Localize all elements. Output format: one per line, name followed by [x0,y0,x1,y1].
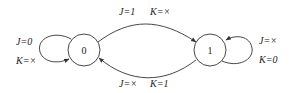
state-1-label: 1 [208,45,213,56]
state-1: 1 [194,34,226,66]
self-loop-0 [39,35,71,62]
state-0: 0 [68,34,100,66]
edge-0-to-1-k-label: K=× [149,6,170,17]
self-loop-1 [222,37,252,64]
edge-1-to-0-k-label: K=1 [149,78,168,89]
self-loop-1-j-label: J=× [259,35,277,46]
self-loop-0-j-label: J=0 [16,36,32,47]
edge-0-to-1-j-label: J=1 [119,6,135,17]
jk-state-diagram: 0 1 J=1 K=× J=× K=1 J=0 K=× J=× K=0 [0,0,290,93]
edge-1-to-0-j-label: J=× [119,78,137,89]
edge-1-to-0 [99,58,196,78]
edge-0-to-1 [98,24,196,42]
self-loop-1-k-label: K=0 [258,54,277,65]
state-0-label: 0 [82,45,87,56]
self-loop-0-k-label: K=× [15,55,36,66]
